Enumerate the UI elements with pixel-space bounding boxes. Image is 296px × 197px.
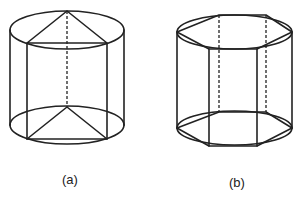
diagram-canvas: (a) (b)	[0, 0, 296, 197]
cylinder-b-bottom-back-arc	[177, 111, 292, 128]
figure-b: (b)	[177, 15, 292, 190]
prism-a-bottom-triangle	[27, 107, 107, 139]
figure-a-label: (a)	[62, 172, 78, 187]
figure-b-label: (b)	[229, 175, 245, 190]
figure-a: (a)	[10, 11, 124, 187]
